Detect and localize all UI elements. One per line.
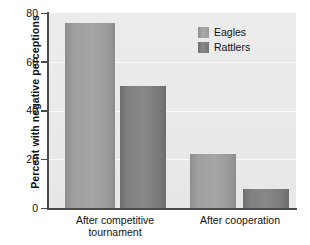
bar-eagles-after-cooperation [190,154,236,208]
x-category-line-1: After cooperation [180,214,300,226]
bar-chart: Percent with negative perceptions 0 20 4… [0,0,310,245]
x-category-line-2: tournament [50,226,180,238]
y-tick-60 [41,61,47,63]
legend-swatch-icon-eagles [198,27,209,38]
legend-item-rattlers: Rattlers [198,41,250,54]
legend-swatch-icon-rattlers [198,42,209,53]
y-tick-label-20: 20 [0,154,38,165]
legend-item-eagles: Eagles [198,26,250,39]
y-tick-80 [41,13,47,15]
y-axis-line [47,12,49,209]
bar-eagles-after-competitive-tournament [65,23,115,208]
y-tick-20 [41,159,47,161]
legend-label-rattlers: Rattlers [214,42,250,53]
y-tick-label-60: 60 [0,57,38,68]
x-category-line-1: After competitive [50,214,180,226]
x-axis-line [47,208,297,210]
y-tick-label-80: 80 [0,8,38,19]
y-tick-label-0: 0 [0,203,38,214]
y-tick-label-40: 40 [0,105,38,116]
y-axis-title: Percent with negative perceptions [29,2,41,202]
x-category-label-after-cooperation: After cooperation [180,214,300,226]
legend-label-eagles: Eagles [214,27,246,38]
bar-rattlers-after-cooperation [243,189,289,209]
y-tick-40 [41,110,47,112]
legend: Eagles Rattlers [198,26,250,56]
x-category-label-after-competitive-tournament: After competitive tournament [50,214,180,238]
bar-rattlers-after-competitive-tournament [120,86,166,208]
plot-area [48,13,296,208]
y-tick-0 [41,208,47,210]
